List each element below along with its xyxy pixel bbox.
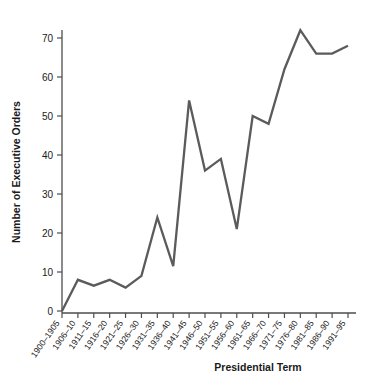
y-tick-label-50: 50 (42, 111, 54, 122)
y-tick-label-70: 70 (42, 33, 54, 44)
y-axis-title: Number of Executive Orders (10, 101, 22, 243)
y-tick-label-10: 10 (42, 267, 54, 278)
y-tick-label-30: 30 (42, 189, 54, 200)
y-tick-label-60: 60 (42, 72, 54, 83)
y-tick-label-40: 40 (42, 150, 54, 161)
line-chart: 010203040506070 Number of Executive Orde… (0, 0, 382, 380)
y-tick-label-0: 0 (47, 306, 53, 317)
y-tick-label-20: 20 (42, 228, 54, 239)
x-axis-title: Presidential Term (214, 361, 301, 373)
chart-canvas: 010203040506070 Number of Executive Orde… (0, 0, 382, 380)
